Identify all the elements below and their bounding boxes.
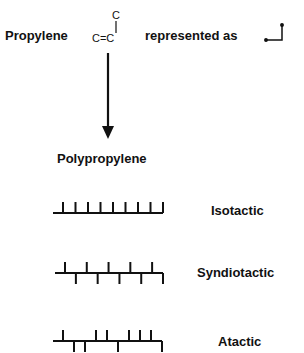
reaction-arrow — [102, 53, 114, 139]
isotactic-chain — [53, 202, 163, 213]
syndiotactic-chain — [55, 262, 163, 284]
diagram-canvas — [0, 0, 304, 353]
atactic-chain — [53, 330, 162, 352]
monomer-skeletal-icon — [265, 24, 283, 41]
